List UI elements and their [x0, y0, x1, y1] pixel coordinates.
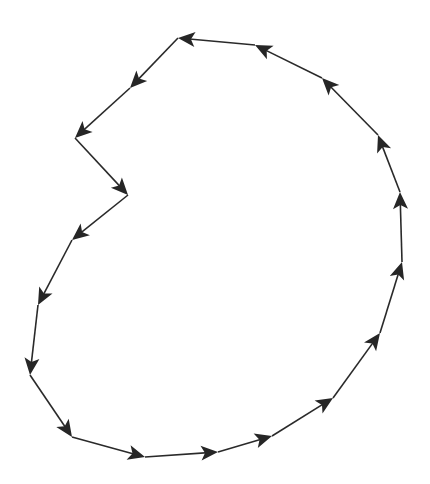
path-segment — [75, 138, 124, 191]
arrowhead-icon — [315, 398, 333, 413]
arrowheads — [25, 32, 409, 461]
path-segment — [145, 452, 212, 457]
arrowhead-icon — [72, 224, 90, 241]
arrowhead-icon — [364, 333, 380, 351]
path-segment — [326, 82, 378, 135]
path-segment — [30, 375, 69, 432]
path-segment — [333, 338, 376, 398]
path-segment — [272, 401, 328, 436]
path-segment — [134, 38, 178, 84]
path-segment — [184, 39, 255, 45]
path-segment — [31, 305, 38, 369]
path-segment — [77, 195, 128, 236]
path-segment — [380, 268, 400, 333]
path-segment — [260, 48, 322, 78]
path-segment — [72, 437, 139, 455]
directed-loop-diagram — [0, 0, 430, 484]
path-segment — [79, 88, 130, 134]
arrowhead-icon — [56, 419, 72, 437]
path-segment — [380, 141, 400, 192]
path-segment — [400, 198, 402, 262]
path-segments — [30, 38, 402, 457]
arrowhead-icon — [38, 287, 53, 306]
path-segment — [41, 240, 72, 300]
